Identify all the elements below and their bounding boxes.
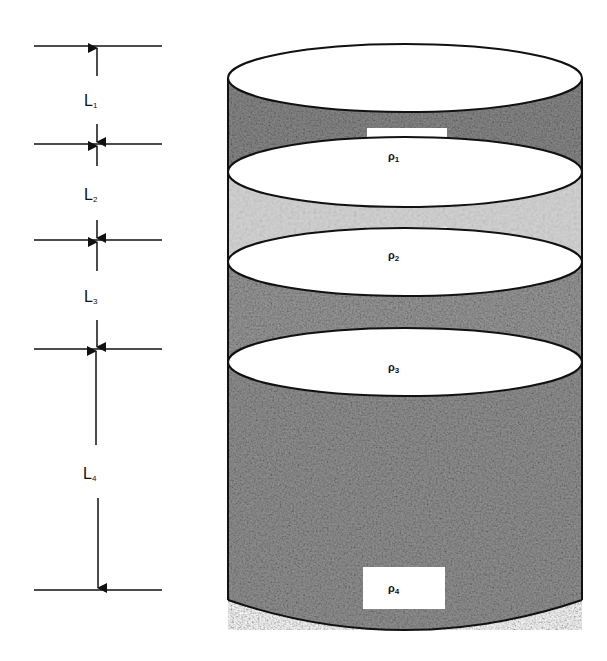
thickness-label-2: L2 <box>84 186 98 204</box>
thickness-label-1: L1 <box>84 92 98 110</box>
label-tab-4 <box>363 567 445 609</box>
thickness-label-4: L4 <box>83 465 97 483</box>
interface-1-2-ellipse <box>228 137 582 207</box>
interface-2-3-ellipse <box>228 228 582 296</box>
interface-3-4-ellipse <box>228 328 582 396</box>
layered-cylinder-diagram: ρ1 ρ2 ρ3 ρ4 L1 L2 <box>0 0 607 661</box>
cylinder: ρ1 ρ2 ρ3 ρ4 <box>228 44 582 630</box>
dimension-lines: L1 L2 L3 L4 <box>34 46 162 590</box>
thickness-label-3: L3 <box>84 288 98 306</box>
top-surface-ellipse <box>228 44 582 112</box>
